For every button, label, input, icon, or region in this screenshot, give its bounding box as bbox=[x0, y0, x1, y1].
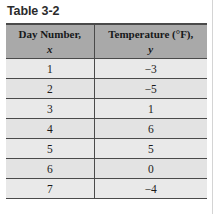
header-row: Day Number, x Temperature (°F), y bbox=[6, 24, 207, 59]
column-header-day-number-title: Day Number, bbox=[18, 28, 81, 40]
cell-day-number: 1 bbox=[6, 59, 94, 79]
data-table: Day Number, x Temperature (°F), y 1 −3 2… bbox=[6, 23, 207, 199]
cell-day-number: 5 bbox=[6, 139, 94, 159]
table-row: 5 5 bbox=[6, 139, 207, 159]
column-header-day-number: Day Number, x bbox=[6, 24, 94, 59]
table-header: Day Number, x Temperature (°F), y bbox=[6, 24, 207, 59]
table-row: 7 −4 bbox=[6, 179, 207, 199]
column-header-temperature-variable: y bbox=[97, 43, 206, 56]
table-figure: Table 3-2 Day Number, x Temperature (°F)… bbox=[0, 0, 213, 214]
table-caption: Table 3-2 bbox=[7, 4, 59, 18]
cell-temperature: 1 bbox=[94, 99, 207, 119]
cell-day-number: 4 bbox=[6, 119, 94, 139]
table-body: 1 −3 2 −5 3 1 4 6 5 5 6 0 bbox=[6, 59, 207, 199]
table-row: 4 6 bbox=[6, 119, 207, 139]
page-edge-rule bbox=[212, 0, 213, 214]
cell-day-number: 3 bbox=[6, 99, 94, 119]
cell-temperature: 6 bbox=[94, 119, 207, 139]
cell-temperature: 0 bbox=[94, 159, 207, 179]
column-header-day-number-variable: x bbox=[8, 43, 92, 56]
table-row: 6 0 bbox=[6, 159, 207, 179]
cell-temperature: −4 bbox=[94, 179, 207, 199]
column-header-temperature: Temperature (°F), y bbox=[94, 24, 207, 59]
cell-temperature: −5 bbox=[94, 79, 207, 99]
cell-temperature: 5 bbox=[94, 139, 207, 159]
table-row: 2 −5 bbox=[6, 79, 207, 99]
cell-day-number: 2 bbox=[6, 79, 94, 99]
cell-temperature: −3 bbox=[94, 59, 207, 79]
column-header-temperature-title: Temperature (°F), bbox=[108, 28, 193, 40]
table-row: 1 −3 bbox=[6, 59, 207, 79]
cell-day-number: 6 bbox=[6, 159, 94, 179]
table-row: 3 1 bbox=[6, 99, 207, 119]
cell-day-number: 7 bbox=[6, 179, 94, 199]
